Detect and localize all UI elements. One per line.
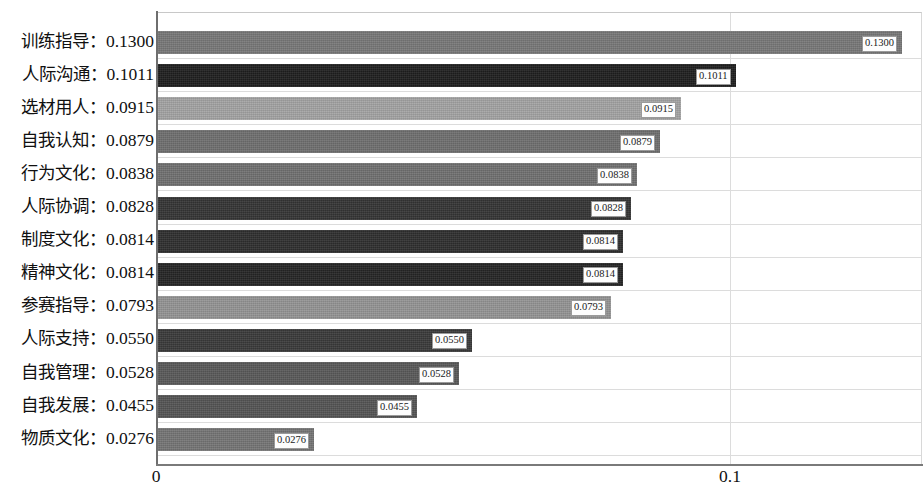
gridline-horizontal [156,257,921,258]
gridline-horizontal [156,224,921,225]
bar [156,130,660,153]
bar-texture [156,230,623,253]
gridline-horizontal [156,190,921,191]
category-label: 人际沟通：0.1011 [22,66,154,84]
category-label: 训练指导：0.1300 [21,33,154,51]
category-axis-labels: 训练指导：0.1300人际沟通：0.1011选材用人：0.0915自我认知：0.… [0,0,156,495]
y-axis-line [156,11,158,466]
category-label: 人际协调：0.0828 [21,198,154,216]
bar-value-label: 0.0814 [583,234,618,250]
bar-texture [156,362,459,385]
bar-value-label: 0.0793 [571,300,606,316]
bar-texture [156,64,736,87]
bar-value-label: 0.0814 [583,267,618,283]
category-label: 自我管理：0.0528 [21,364,154,382]
bar-value-label: 0.0550 [432,333,467,349]
x-tick-label: 0 [152,468,161,486]
bar-value-label: 0.0528 [419,367,454,383]
bar-value-label: 0.1011 [696,69,731,85]
gridline-horizontal [156,157,921,158]
bar-value-label: 0.1300 [862,36,897,52]
bar-value-label: 0.0915 [641,102,676,118]
gridline-horizontal [156,124,921,125]
bar [156,97,681,120]
category-label: 精神文化：0.0814 [21,264,154,282]
category-label: 参赛指导：0.0793 [21,297,154,315]
gridline-horizontal [156,290,921,291]
bar [156,64,736,87]
bar [156,230,623,253]
bar-texture [156,197,631,220]
bar-texture [156,163,637,186]
bar [156,31,902,54]
x-tick-label: 0.1 [719,468,741,486]
bar-value-label: 0.0838 [597,168,632,184]
category-label: 物质文化：0.0276 [21,430,154,448]
bar-value-label: 0.0455 [377,400,412,416]
bar [156,263,623,286]
bar-texture [156,263,623,286]
bar-texture [156,31,902,54]
bar [156,197,631,220]
gridline-horizontal [156,356,921,357]
gridline-horizontal [156,58,921,59]
category-label: 制度文化：0.0814 [21,231,154,249]
bar [156,329,472,352]
category-label: 人际支持：0.0550 [21,330,154,348]
bar-texture [156,296,611,319]
bar-value-label: 0.0276 [274,433,309,449]
bar [156,296,611,319]
gridline-horizontal [156,389,921,390]
bar-texture [156,329,472,352]
x-axis-line [156,464,923,466]
horizontal-bar-chart: 训练指导：0.1300人际沟通：0.1011选材用人：0.0915自我认知：0.… [0,0,923,495]
bar-value-label: 0.0879 [620,135,655,151]
bar-texture [156,97,681,120]
category-label: 行为文化：0.0838 [21,165,154,183]
gridline-horizontal [156,91,921,92]
gridline-horizontal [156,455,921,456]
category-label: 选材用人：0.0915 [21,99,154,117]
bar-texture [156,130,660,153]
gridline-horizontal [156,323,921,324]
category-label: 自我认知：0.0879 [21,132,154,150]
plot-area: 0.13000.10110.09150.08790.08380.08280.08… [156,12,922,464]
bar [156,362,459,385]
gridline-horizontal [156,422,921,423]
bar-value-label: 0.0828 [591,201,626,217]
category-label: 自我发展：0.0455 [21,397,154,415]
bar [156,163,637,186]
